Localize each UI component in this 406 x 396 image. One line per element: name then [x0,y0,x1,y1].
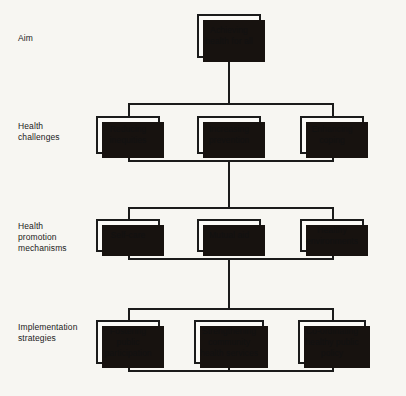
connector-bus-challenges-bottom [128,160,334,162]
node-label: Reducing inequities [110,124,147,146]
node-co-ordinating-healthy-public-policy[interactable]: Co-ordinating healthy public policy [298,320,366,364]
node-label: Strengthening community health services [200,326,258,359]
node-fostering-public-participation[interactable]: Fostering public participation [96,320,160,364]
node-label: Self-care [111,230,146,241]
node-label: Healthy environments [306,225,358,247]
diagram-canvas: Aim Health challenges Health promotion m… [0,0,406,396]
node-self-care[interactable]: Self-care [96,219,160,252]
connector-spine-aim-to-challenges [228,57,230,103]
row-label-aim: Aim [18,33,33,44]
connector-drop-strategies-right [332,308,334,320]
connector-bus-mechanisms-top [128,207,334,209]
row-label-implementation-strategies: Implementation strategies [18,322,78,344]
node-increasing-prevention[interactable]: Increasing prevention [197,116,261,154]
node-label: Enhancing coping [311,124,352,146]
connector-spine-mechanisms-to-strategies [228,258,230,310]
connector-drop-mechanisms-left [128,207,130,219]
connector-bus-strategies-top [128,308,334,310]
connector-spine-challenges-to-mechanisms [228,160,230,209]
connector-drop-challenges-left [128,103,130,116]
node-mutual-aid[interactable]: Mutual aid [197,219,261,252]
row-label-health-promotion-mechanisms: Health promotion mechanisms [18,221,67,254]
connector-drop-mechanisms-right [332,207,334,219]
connector-bus-mechanisms-bottom [128,258,334,260]
node-label: Co-ordinating healthy public policy [305,326,358,359]
node-achieving-health-for-all[interactable]: Achieving health for all [197,14,261,58]
node-label: Mutual aid [209,230,249,241]
connector-drop-challenges-right [332,103,334,116]
connector-drop-strategies-left [128,308,130,320]
node-label: Achieving health for all [205,25,253,47]
node-label: Fostering public participation [104,326,151,359]
connector-bus-strategies-bottom [128,370,334,372]
connector-bus-challenges-top [128,103,334,105]
node-label: Increasing prevention [209,124,250,146]
row-label-health-challenges: Health challenges [18,121,60,143]
node-enhancing-coping[interactable]: Enhancing coping [300,116,364,154]
node-healthy-environments[interactable]: Healthy environments [300,219,364,252]
node-strengthening-community-health-services[interactable]: Strengthening community health services [194,320,264,364]
node-reducing-inequities[interactable]: Reducing inequities [96,116,160,154]
